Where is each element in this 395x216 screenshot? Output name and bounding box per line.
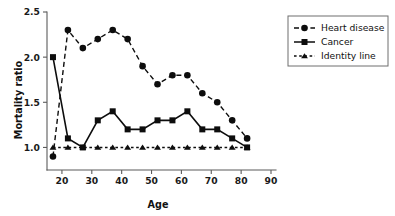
square-marker	[65, 135, 71, 141]
square-marker	[229, 135, 235, 141]
y-tick-label: 1.0	[24, 142, 40, 153]
y-tick-label: 1.5	[24, 97, 40, 108]
circle-marker	[229, 117, 236, 124]
triangle-marker	[154, 145, 161, 150]
square-marker	[302, 39, 308, 45]
y-axis: 1.01.52.02.5	[24, 6, 47, 170]
circle-marker	[154, 81, 161, 88]
x-tick-label: 20	[56, 175, 69, 186]
chart-figure: 1.01.52.02.5 2030405060708090 Mortality …	[0, 0, 395, 216]
square-marker	[155, 117, 161, 123]
circle-marker	[184, 72, 191, 79]
square-marker	[50, 54, 56, 60]
y-tick-label: 2.0	[24, 52, 40, 63]
circle-marker	[65, 27, 72, 34]
square-marker	[125, 126, 131, 132]
x-tick-label: 90	[265, 175, 278, 186]
x-tick-label: 50	[145, 175, 158, 186]
legend-label: Identity line	[321, 50, 376, 61]
circle-marker	[109, 27, 116, 34]
circle-marker	[214, 99, 221, 106]
triangle-marker	[229, 145, 236, 150]
square-marker	[199, 126, 205, 132]
data-series-group	[50, 27, 251, 160]
series-heart-disease	[50, 27, 251, 160]
circle-marker	[169, 72, 176, 79]
circle-marker	[80, 45, 87, 52]
circle-marker	[139, 63, 146, 70]
circle-marker	[94, 36, 101, 43]
x-axis-title: Age	[148, 199, 169, 210]
legend-label: Cancer	[321, 36, 354, 47]
circle-marker	[124, 36, 131, 43]
x-tick-label: 60	[175, 175, 188, 186]
circle-marker	[244, 135, 251, 142]
square-marker	[184, 108, 190, 114]
mortality-ratio-line-chart: 1.01.52.02.5 2030405060708090 Mortality …	[0, 0, 395, 216]
x-tick-label: 40	[115, 175, 128, 186]
circle-marker	[50, 153, 57, 160]
x-tick-label: 80	[235, 175, 248, 186]
square-marker	[95, 117, 101, 123]
y-axis-title: Mortality ratio	[13, 60, 24, 139]
square-marker	[110, 108, 116, 114]
square-marker	[214, 126, 220, 132]
square-marker	[140, 126, 146, 132]
circle-marker	[301, 25, 308, 32]
x-tick-label: 70	[205, 175, 218, 186]
triangle-marker	[139, 145, 146, 150]
square-marker	[169, 117, 175, 123]
triangle-marker	[124, 145, 131, 150]
y-tick-label: 2.5	[24, 6, 40, 17]
chart-legend: Heart diseaseCancerIdentity line	[288, 16, 388, 66]
x-axis: 2030405060708090	[47, 170, 277, 186]
legend-label: Heart disease	[321, 22, 385, 33]
x-tick-label: 30	[85, 175, 98, 186]
circle-marker	[199, 90, 206, 97]
